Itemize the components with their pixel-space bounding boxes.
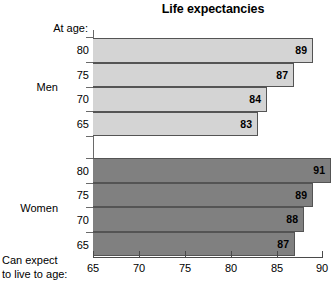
x-tick-75 xyxy=(185,251,186,258)
category-label-women-75: 75 xyxy=(77,190,89,201)
chart-title: Life expectancies xyxy=(93,2,333,16)
x-tick-70 xyxy=(139,251,140,258)
bar-row: 84 xyxy=(93,87,335,112)
category-label-men-80: 80 xyxy=(77,45,89,56)
group-label-women: Women xyxy=(20,203,58,214)
category-tick-men-75 xyxy=(86,62,93,63)
category-tick-men-70 xyxy=(86,87,93,88)
x-tick-80 xyxy=(231,251,232,258)
category-label-women-70: 70 xyxy=(77,215,89,226)
bar-value-women-65: 87 xyxy=(277,239,289,250)
group-label-men: Men xyxy=(37,82,58,93)
x-axis-caption-line1: Can expect xyxy=(2,254,67,268)
bar-value-men-80: 89 xyxy=(295,45,307,56)
bar-row: 89 xyxy=(93,38,335,63)
bar-value-men-70: 84 xyxy=(249,94,261,105)
bar-women-75: 89 xyxy=(93,183,313,208)
x-tick-label-70: 70 xyxy=(124,262,154,274)
x-tick-label-65: 65 xyxy=(78,262,108,274)
plot-area: 89 87 84 83 91 xyxy=(93,36,335,257)
bar-group-women: 91 89 88 87 xyxy=(93,158,335,256)
category-label-women-80: 80 xyxy=(77,166,89,177)
bar-row: 87 xyxy=(93,63,335,88)
bar-row: 89 xyxy=(93,183,335,208)
bar-value-women-70: 88 xyxy=(286,214,298,225)
x-axis-line xyxy=(93,257,323,258)
bar-men-75: 87 xyxy=(93,63,294,88)
category-label-men-70: 70 xyxy=(77,94,89,105)
category-label-men-75: 75 xyxy=(77,70,89,81)
category-label-women-65: 65 xyxy=(77,240,89,251)
bar-row: 87 xyxy=(93,232,335,257)
x-tick-65 xyxy=(93,251,94,258)
category-label-men-65: 65 xyxy=(77,119,89,130)
bar-men-65: 83 xyxy=(93,112,258,137)
category-tick-men-end xyxy=(86,136,93,137)
x-tick-label-75: 75 xyxy=(170,262,200,274)
x-tick-label-85: 85 xyxy=(262,262,292,274)
bar-row: 88 xyxy=(93,207,335,232)
bar-value-men-75: 87 xyxy=(276,70,288,81)
x-tick-label-90: 90 xyxy=(307,262,335,274)
bar-men-70: 84 xyxy=(93,87,267,112)
x-axis-caption-line2: to live to age: xyxy=(2,268,67,282)
category-tick-men-80 xyxy=(86,37,93,38)
category-tick-men-65 xyxy=(86,111,93,112)
bar-women-80: 91 xyxy=(93,158,331,183)
bar-group-men: 89 87 84 83 xyxy=(93,38,335,136)
bar-men-80: 89 xyxy=(93,38,313,63)
bar-women-70: 88 xyxy=(93,207,304,232)
category-tick-women-75 xyxy=(86,183,93,184)
bar-value-women-80: 91 xyxy=(313,165,325,176)
life-expectancy-bar-chart: Life expectancies At age: 80 75 70 65 80… xyxy=(0,0,335,284)
x-tick-85 xyxy=(277,251,278,258)
y-axis-caption: At age: xyxy=(53,22,88,34)
category-tick-women-65 xyxy=(86,232,93,233)
bar-value-men-65: 83 xyxy=(240,119,252,130)
bar-row: 83 xyxy=(93,112,335,137)
category-tick-women-70 xyxy=(86,207,93,208)
x-tick-90 xyxy=(322,251,323,258)
category-tick-women-80 xyxy=(86,158,93,159)
bar-row: 91 xyxy=(93,158,335,183)
bar-women-65: 87 xyxy=(93,232,295,257)
bar-value-women-75: 89 xyxy=(295,190,307,201)
x-tick-label-80: 80 xyxy=(216,262,246,274)
x-axis-caption: Can expect to live to age: xyxy=(2,254,67,282)
